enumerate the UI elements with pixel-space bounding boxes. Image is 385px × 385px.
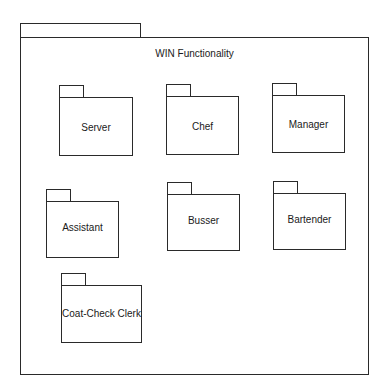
package-body: Busser xyxy=(167,194,240,251)
container-title: WIN Functionality xyxy=(21,48,368,59)
package-label: Bartender xyxy=(274,214,345,225)
package-label: Server xyxy=(60,122,132,133)
package-body: Coat-Check Clerk xyxy=(61,285,142,343)
package-label: Busser xyxy=(168,215,239,226)
package-label: Assistant xyxy=(47,222,118,233)
package-body: Bartender xyxy=(273,193,346,250)
package-label: Manager xyxy=(273,119,344,130)
package-body: Assistant xyxy=(46,201,119,258)
package-body: Server xyxy=(59,97,133,156)
package-body: Chef xyxy=(166,96,239,155)
package-label: Chef xyxy=(167,121,238,132)
package-label: Coat-Check Clerk xyxy=(62,308,141,319)
package-body: Manager xyxy=(272,95,345,153)
